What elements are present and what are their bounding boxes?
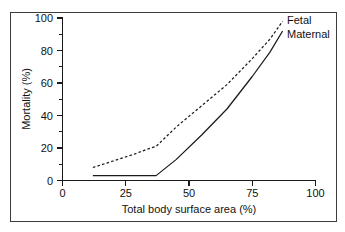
y-axis-title: Mortality (%) [20,68,32,130]
x-tick-label-100: 100 [306,187,324,199]
y-tick-label-60: 60 [41,77,53,89]
series-label-maternal: Maternal [287,28,330,40]
mortality-vs-tbsa-chart: 0 20 40 60 80 100 0 25 50 75 100 Total b… [0,0,345,232]
y-tick-label-0: 0 [47,175,53,187]
x-tick-label-0: 0 [59,187,65,199]
y-tick-label-20: 20 [41,142,53,154]
x-tick-label-50: 50 [183,187,195,199]
y-tick-label-100: 100 [35,12,53,24]
x-axis-title: Total body surface area (%) [122,203,257,215]
x-tick-label-25: 25 [120,187,132,199]
figure-root: 0 20 40 60 80 100 0 25 50 75 100 Total b… [0,0,345,232]
y-tick-label-40: 40 [41,110,53,122]
y-tick-label-80: 80 [41,45,53,57]
series-label-fetal: Fetal [287,14,311,26]
x-tick-label-75: 75 [246,187,258,199]
